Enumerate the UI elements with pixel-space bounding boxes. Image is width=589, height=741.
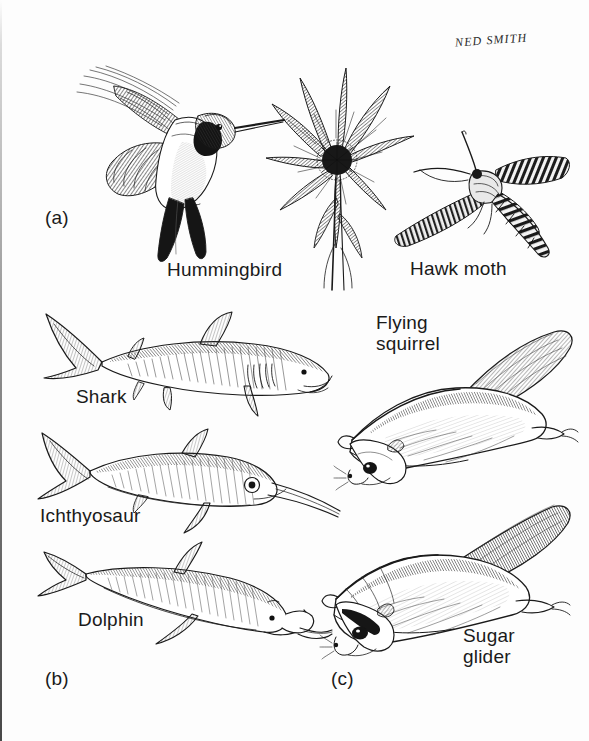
hummingbird-illustration	[72, 58, 287, 273]
sugar-glider-label: Sugar glider	[463, 625, 515, 668]
hummingbird-label: Hummingbird	[167, 259, 282, 280]
dolphin-label: Dolphin	[78, 609, 144, 630]
page-gutter-shadow	[0, 0, 2, 741]
dolphin-illustration	[32, 540, 344, 655]
artist-signature: NED SMITH	[455, 30, 528, 50]
sugar-glider-illustration	[324, 505, 584, 685]
convergent-evolution-figure: NED SMITH	[0, 0, 589, 741]
ichthyosaur-label: Ichthyosaur	[40, 505, 140, 526]
panel-letter-c: (c)	[331, 668, 354, 690]
hawk-moth-label: Hawk moth	[410, 258, 507, 279]
shark-label: Shark	[76, 386, 127, 407]
hawk-moth-illustration	[392, 128, 582, 260]
panel-letter-a: (a)	[45, 207, 69, 229]
panel-letter-b: (b)	[45, 668, 69, 690]
flying-squirrel-illustration	[336, 318, 584, 518]
flying-squirrel-label: Flying squirrel	[376, 312, 440, 355]
